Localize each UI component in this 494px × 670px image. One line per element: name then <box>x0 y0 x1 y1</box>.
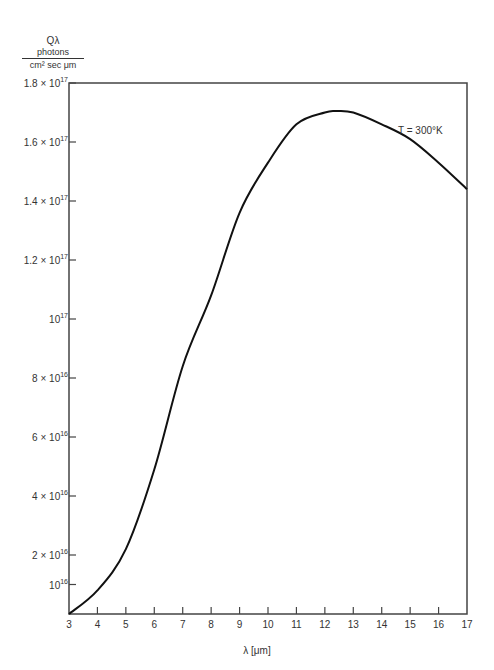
y-tick-label: 2 × 1016 <box>32 548 68 560</box>
y-tick-label: 1017 <box>49 312 68 324</box>
x-tick-label: 5 <box>123 619 129 630</box>
x-tick-label: 8 <box>208 619 214 630</box>
x-tick-label: 11 <box>291 619 301 630</box>
spectral-photon-radiance-curve <box>69 111 467 614</box>
x-tick-label: 3 <box>66 619 72 630</box>
x-tick-label: 17 <box>461 619 472 630</box>
y-tick-label: 1.2 × 1017 <box>24 253 68 265</box>
x-tick-label: 14 <box>376 619 387 630</box>
curve-annotation: T = 300°K <box>398 125 443 136</box>
y-tick-label: 1.6 × 1017 <box>24 135 68 147</box>
x-tick-label: 9 <box>237 619 243 630</box>
x-tick-label: 13 <box>348 619 359 630</box>
x-tick-label: 15 <box>405 619 416 630</box>
plot-area <box>0 0 494 670</box>
y-tick-label: 6 × 1016 <box>32 430 68 442</box>
x-tick-label: 6 <box>152 619 158 630</box>
x-tick-label: 10 <box>262 619 273 630</box>
y-tick-label: 4 × 1016 <box>32 489 68 501</box>
x-tick-label: 16 <box>433 619 444 630</box>
x-axis-label: λ [μm] <box>243 645 270 656</box>
y-tick-label: 1.8 × 1017 <box>24 76 68 88</box>
y-tick-label: 1016 <box>49 578 68 590</box>
y-tick-label: 8 × 1016 <box>32 371 68 383</box>
x-tick-label: 12 <box>319 619 330 630</box>
x-tick-label: 4 <box>95 619 101 630</box>
x-tick-label: 7 <box>180 619 186 630</box>
y-tick-label: 1.4 × 1017 <box>24 194 68 206</box>
axis-ticks <box>69 83 439 614</box>
